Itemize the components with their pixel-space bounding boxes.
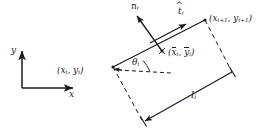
y-axis-label: y [11, 46, 16, 55]
panel-end-point-label: (xi+1, yi+1) [209, 14, 252, 24]
length-cap-right [230, 67, 236, 77]
theta-arc [143, 61, 150, 72]
panel-edge [111, 18, 206, 68]
length-arrow [145, 72, 232, 121]
construction-dashed-lines [113, 20, 232, 122]
normal-vector-label: ni [131, 2, 139, 12]
panel-midpoint-label: (xi, yi) [168, 48, 195, 58]
angle-theta-label: θi [132, 58, 139, 68]
panel-geometry-figure: y x (xi, yi) (xi+1, yi+1) (xi, yi) ni ti… [0, 0, 265, 136]
panel-start-point-label: (xi, yi) [57, 66, 84, 76]
theta-reference-dashes [118, 70, 171, 73]
tangent-vector-label: ti [178, 7, 183, 17]
panel-line [113, 20, 205, 67]
length-dimension [141, 67, 236, 127]
panel-length-label: li [191, 90, 196, 101]
tangent-vector-arrow [150, 24, 186, 43]
dashed-left-side [113, 67, 143, 122]
theta-reference-arrow [114, 69, 122, 70]
x-axis-label: x [69, 90, 74, 99]
dashed-right-side [205, 20, 232, 72]
normal-vector-arrow [137, 16, 162, 51]
length-cap-left [141, 117, 147, 127]
